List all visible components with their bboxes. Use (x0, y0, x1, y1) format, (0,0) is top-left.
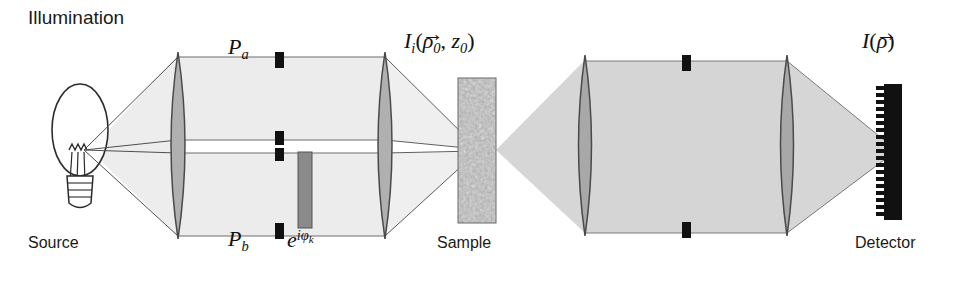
phase-base: e (287, 227, 297, 252)
phase-exponent: iφk (297, 227, 314, 243)
vector-arrow-icon: → (422, 23, 433, 34)
detector-array (876, 84, 902, 220)
beam-collimated-section (178, 57, 385, 236)
source-label: Source (28, 235, 79, 251)
beam-sample-to-lens3 (496, 60, 585, 233)
irho-rho-vector: →ρ (877, 30, 888, 52)
pa-symbol: P (228, 34, 241, 59)
ii-rho-vector: →ρ (423, 30, 434, 52)
phase-mask-label: eiφk (287, 228, 314, 251)
sample-label: Sample (437, 235, 491, 251)
source-bulb-icon (52, 84, 108, 208)
aperture-stop-pb (275, 223, 284, 239)
vector-arrow-icon: → (876, 23, 887, 34)
aperture-pa-label: Pa (228, 36, 249, 61)
ii-z: z (452, 28, 461, 53)
sample-slab (458, 78, 496, 223)
beam-lens3-to-lens4 (585, 61, 787, 233)
aperture-stop-mid-lower (275, 148, 284, 161)
pb-symbol: P (228, 226, 241, 251)
aperture-stop-mid-upper (275, 131, 284, 145)
phase-exponent-subscript: k (309, 233, 314, 245)
optical-setup-figure: Illumination Source Sample Detector Pa P… (0, 0, 975, 286)
pb-subscript: b (241, 238, 248, 254)
detector-label: Detector (855, 235, 915, 251)
phase-mask (298, 152, 312, 228)
page-title: Illumination (28, 8, 124, 27)
ii-close-paren: ) (467, 28, 474, 53)
aperture-pb-label: Pb (228, 228, 249, 253)
detected-intensity-label: I(→ρ) (862, 30, 895, 52)
beam-lens4-to-detector (787, 61, 884, 233)
aperture-stop-upper-right (682, 55, 691, 71)
aperture-stop-lower-right (682, 222, 691, 238)
illumination-intensity-label: Ii(→ρ0, z0) (404, 30, 475, 55)
phase-exponent-text: iφ (297, 227, 309, 243)
pa-subscript: a (241, 46, 248, 62)
aperture-stop-pa (275, 52, 284, 68)
